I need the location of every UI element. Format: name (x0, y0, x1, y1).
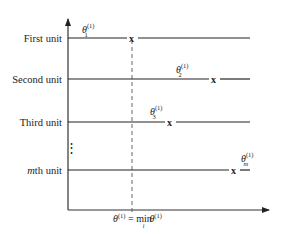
mark-first: x (129, 33, 134, 44)
theta-3-label: θ(1)3 (150, 104, 163, 120)
label-mth-unit: mth unit (27, 165, 62, 176)
ellipsis: ⋮ (65, 140, 78, 155)
mark-second: x (211, 74, 216, 85)
mark-third: x (167, 117, 172, 128)
theta-1-label: θ(1)1 (82, 22, 95, 38)
theta-m-label: θ(1)m (241, 151, 254, 167)
theta-2-label: θ(1)2 (176, 62, 189, 78)
label-first-unit: First unit (24, 33, 62, 44)
theta-minimum-diagram: x x x x First unit Second unit Third uni… (0, 0, 283, 234)
label-third-unit: Third unit (20, 117, 62, 128)
label-second-unit: Second unit (12, 74, 62, 85)
minimum-formula-label: θ(1) = miniθ(1) (113, 212, 162, 229)
mark-mth: x (231, 165, 236, 176)
